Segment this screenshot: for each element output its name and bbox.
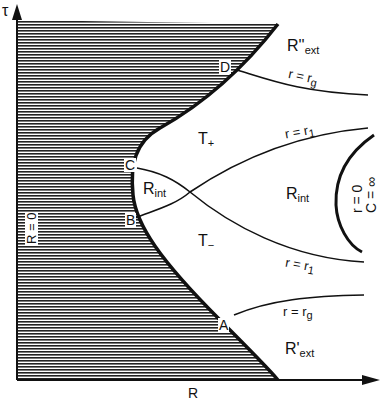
region-r-int-right-main: R [286, 185, 298, 202]
region-r-int-right-sub: int [298, 192, 310, 204]
tau-axis-label: τ [2, 3, 8, 19]
penrose-diagram [0, 0, 383, 402]
region-t-plus-main: T [198, 130, 208, 147]
curve-r1-lower [137, 168, 364, 262]
curve-rg-lower-label: r = rg [283, 305, 313, 321]
region-r-int-left-sub: int [155, 187, 167, 199]
region-t-minus: T− [198, 233, 214, 251]
region-r-int-right: Rint [286, 186, 309, 204]
region-t-minus-sub: − [208, 239, 214, 251]
region-r-ext-lower: R'ext [285, 341, 314, 359]
r-zero-label: R = 0 [25, 212, 38, 245]
point-a-label: A [218, 318, 229, 332]
hatched-region [17, 20, 278, 380]
curve-r1-upper-main: r = r [284, 123, 310, 142]
region-r-ext-lower-sub: ext [300, 347, 315, 359]
singularity-r-label: r = 0 [350, 185, 364, 213]
region-r-ext-upper: R''ext [287, 38, 319, 56]
region-r-ext-upper-main: R'' [287, 37, 305, 54]
region-t-minus-main: T [198, 232, 208, 249]
tau-axis-arrow-icon [12, 4, 22, 20]
region-r-int-left-main: R [143, 180, 155, 197]
region-t-plus-sub: + [208, 137, 214, 149]
curve-r1-lower-main: r = r [284, 255, 310, 274]
point-c-label: C [124, 158, 136, 172]
curve-rg-lower-main: r = r [283, 304, 306, 319]
curve-r1-upper [135, 128, 368, 218]
point-b-label: B [125, 213, 136, 227]
singularity-c-label: C = ∞ [364, 177, 378, 213]
region-r-int-left: Rint [143, 181, 166, 199]
region-t-plus: T+ [198, 131, 214, 149]
r-axis-label: R [188, 386, 198, 400]
curve-rg-lower-sub: g [306, 309, 312, 321]
region-r-ext-lower-main: R' [285, 340, 300, 357]
region-r-ext-upper-sub: ext [305, 44, 320, 56]
point-d-label: D [219, 60, 231, 74]
r-axis-arrow-icon [362, 375, 380, 385]
